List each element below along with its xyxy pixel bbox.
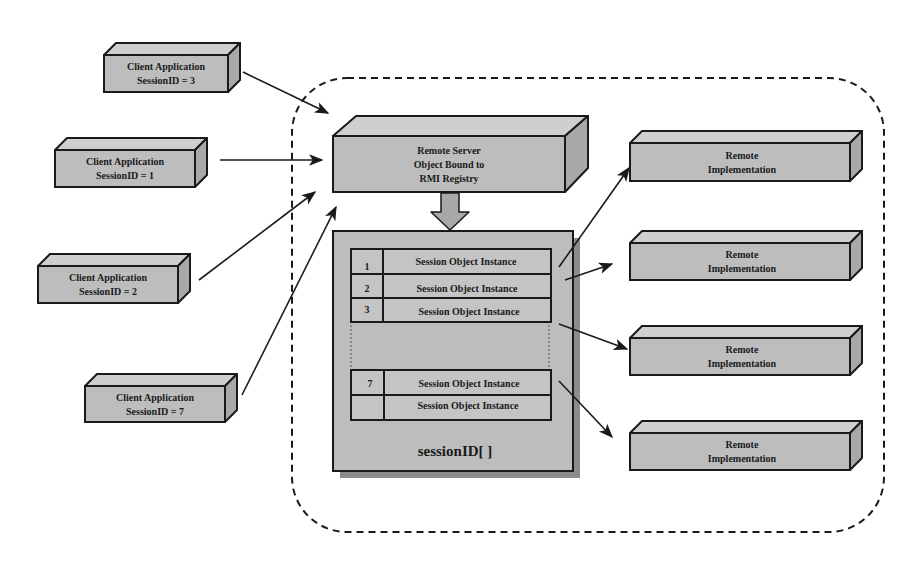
client-session-id: SessionID = 3 bbox=[137, 75, 195, 86]
session-index: 2 bbox=[365, 283, 370, 294]
remote-server-box: Remote Server Object Bound to RMI Regist… bbox=[333, 116, 588, 192]
session-object-label: Session Object Instance bbox=[418, 378, 520, 389]
arrow-client2-to-server bbox=[199, 192, 315, 280]
client-application-box: Client Application SessionID = 3 bbox=[104, 43, 240, 92]
session-row: Session Object Instance bbox=[417, 400, 519, 411]
server-label-line2: Object Bound to bbox=[414, 159, 485, 170]
session-index: 3 bbox=[365, 304, 370, 315]
arrow-client7-to-server bbox=[242, 207, 336, 395]
client-session-id: SessionID = 2 bbox=[79, 286, 137, 297]
session-index: 1 bbox=[365, 261, 370, 272]
client-label: Client Application bbox=[69, 272, 148, 283]
down-arrow-icon bbox=[431, 193, 469, 230]
session-array-caption: sessionID[ ] bbox=[418, 443, 493, 459]
diagram-canvas: Client Application SessionID = 3 Client … bbox=[0, 0, 918, 569]
server-label-line1: Remote Server bbox=[417, 145, 481, 156]
client-label: Client Application bbox=[86, 156, 165, 167]
session-object-label: Session Object Instance bbox=[418, 306, 520, 317]
implementation-label-line2: Implementation bbox=[708, 453, 777, 464]
implementation-label-line1: Remote bbox=[726, 439, 759, 450]
session-object-label: Session Object Instance bbox=[416, 283, 518, 294]
client-session-id: SessionID = 7 bbox=[126, 406, 184, 417]
client-label: Client Application bbox=[127, 61, 206, 72]
client-session-id: SessionID = 1 bbox=[96, 170, 154, 181]
client-label: Client Application bbox=[116, 392, 195, 403]
implementation-label-line1: Remote bbox=[726, 344, 759, 355]
remote-implementation-box: Remote Implementation bbox=[630, 421, 862, 470]
implementation-label-line2: Implementation bbox=[708, 358, 777, 369]
session-index: 7 bbox=[368, 378, 373, 389]
remote-implementation-box: Remote Implementation bbox=[630, 231, 862, 280]
remote-implementation-box: Remote Implementation bbox=[630, 326, 862, 375]
session-object-label: Session Object Instance bbox=[415, 256, 517, 267]
implementation-label-line1: Remote bbox=[726, 249, 759, 260]
implementation-label-line1: Remote bbox=[726, 150, 759, 161]
implementation-label-line2: Implementation bbox=[708, 164, 777, 175]
session-object-label: Session Object Instance bbox=[417, 400, 519, 411]
implementation-label-line2: Implementation bbox=[708, 263, 777, 274]
arrow-client3-to-server bbox=[243, 72, 328, 113]
client-application-box: Client Application SessionID = 7 bbox=[85, 374, 237, 422]
client-application-box: Client Application SessionID = 1 bbox=[55, 138, 207, 187]
client-application-box: Client Application SessionID = 2 bbox=[38, 254, 190, 303]
server-label-line3: RMI Registry bbox=[419, 173, 478, 184]
remote-implementation-box: Remote Implementation bbox=[630, 131, 862, 181]
